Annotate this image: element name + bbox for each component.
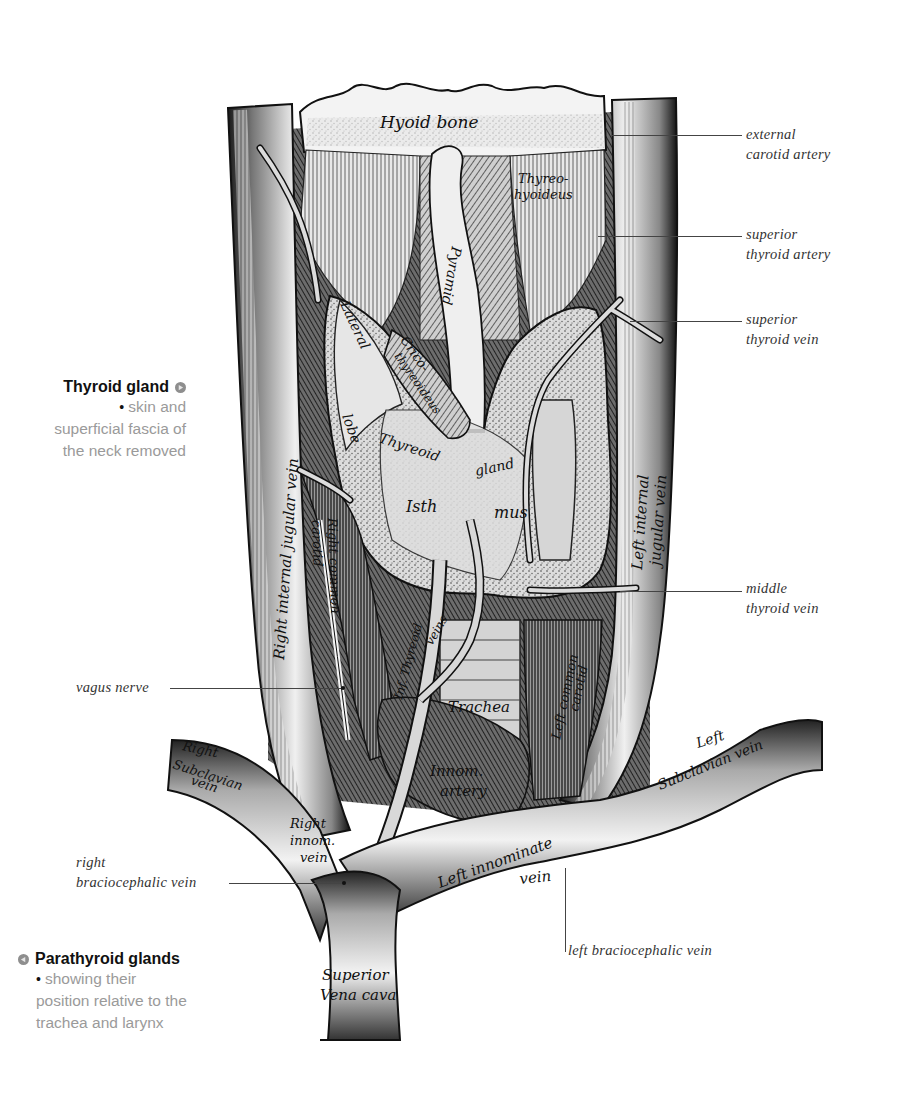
label-isthmus-1: Isth (405, 497, 437, 516)
callout-right-braciocephalic-vein: right braciocephalic vein (76, 852, 196, 892)
caption-body: •skin and superficial fascia of the neck… (26, 396, 186, 462)
label-left-innominate-2: vein (519, 867, 553, 888)
caption-line: showing their (45, 970, 136, 987)
callout-vagus-nerve: vagus nerve (76, 677, 149, 697)
caption-line: position relative to the (36, 990, 248, 1012)
leader-superior-thyroid-artery (598, 236, 742, 237)
caption-title-text: Parathyroid glands (35, 950, 180, 968)
callout-line: thyroid vein (746, 329, 819, 349)
caption-line: skin and (128, 398, 186, 415)
label-right-innom-3: vein (300, 850, 328, 865)
caption-title-text: Thyroid gland (63, 378, 169, 396)
thyroid-gland-caption: Thyroid gland •skin and superficial fasc… (26, 378, 186, 462)
label-thyreo-hyoideus-1: Thyreo- (518, 171, 569, 186)
callout-external-carotid-artery: external carotid artery (746, 124, 831, 164)
callout-line: carotid artery (746, 144, 831, 164)
callout-line: left braciocephalic vein (568, 940, 712, 960)
vagus-nerve-pointer (341, 686, 345, 690)
callout-superior-thyroid-vein: superior thyroid vein (746, 309, 819, 349)
caption-line: superficial fascia of (26, 418, 186, 440)
bullet: • (119, 399, 124, 415)
callout-line: external (746, 124, 831, 144)
leader-external-carotid (612, 135, 742, 136)
label-svc-1: Superior (322, 966, 389, 984)
label-isthmus-2: mus (494, 503, 528, 522)
caption-line: the neck removed (26, 440, 186, 462)
caption-line: trachea and larynx (36, 1012, 248, 1034)
left-arrow-circle-icon (18, 954, 29, 965)
bullet: • (36, 971, 41, 987)
label-trachea: Trachea (448, 698, 510, 716)
callout-line: superior (746, 309, 819, 329)
right-arrow-circle-icon (175, 382, 186, 393)
label-right-innom-2: innom. (290, 833, 335, 848)
caption-title: Parathyroid glands (18, 950, 248, 968)
label-svc-2: Vena cava (320, 986, 396, 1004)
thyroid-anatomy-illustration: Hyoid bone Thyreo- hyoideus Pyramid Late… (0, 0, 899, 1104)
label-right-innom-1: Right (289, 816, 327, 831)
label-left-subclavian-1: Left (693, 727, 726, 751)
right-braciocephalic-pointer (342, 881, 346, 885)
superior-vena-cava (312, 872, 400, 1040)
callout-middle-thyroid-vein: middle thyroid vein (746, 578, 819, 618)
leader-vagus-nerve (170, 688, 342, 689)
caption-title: Thyroid gland (26, 378, 186, 396)
leader-superior-thyroid-vein (630, 321, 742, 322)
label-hyoid-bone: Hyoid bone (379, 112, 479, 132)
label-innom-artery-1: Innom. (429, 762, 483, 780)
caption-body: •showing their position relative to the … (18, 968, 248, 1034)
callout-line: thyroid artery (746, 244, 831, 264)
callout-line: thyroid vein (746, 598, 819, 618)
label-thyreo-hyoideus-2: hyoideus (514, 187, 573, 202)
callout-line: middle (746, 578, 819, 598)
leader-middle-thyroid-vein (620, 591, 742, 592)
leader-right-braciocephalic (229, 883, 344, 884)
parathyroid-glands-caption: Parathyroid glands •showing their positi… (18, 950, 248, 1034)
leader-left-braciocephalic (565, 868, 566, 952)
callout-line: right (76, 852, 196, 872)
callout-left-braciocephalic-vein: left braciocephalic vein (568, 940, 712, 960)
label-innom-artery-2: artery (440, 782, 487, 800)
callout-line: braciocephalic vein (76, 872, 196, 892)
callout-superior-thyroid-artery: superior thyroid artery (746, 224, 831, 264)
callout-line: vagus nerve (76, 677, 149, 697)
label-right-common-carotid-2: carotid (309, 520, 326, 567)
callout-line: superior (746, 224, 831, 244)
